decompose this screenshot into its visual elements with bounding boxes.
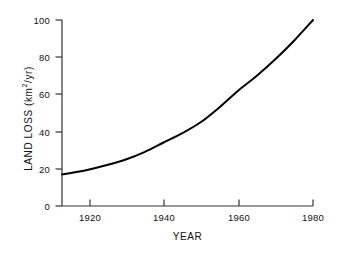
y-axis-label-exponent: 2: [21, 83, 28, 88]
y-tick-label-0: 0: [6, 201, 50, 212]
data-series-line: [62, 20, 313, 174]
y-axis-ticks: [56, 20, 63, 206]
x-tick-label-1980: 1980: [302, 212, 324, 223]
chart-figure: 100 80 60 40 20 0 1920 1940 1960 1980 LA…: [0, 0, 341, 258]
y-tick-label-100: 100: [6, 15, 50, 26]
y-axis-label: LAND LOSS (km2/yr): [23, 44, 34, 194]
x-axis-label: YEAR: [62, 231, 313, 242]
y-axis-label-prefix: LAND LOSS (km: [23, 87, 34, 170]
x-tick-label-1920: 1920: [79, 212, 101, 223]
y-axis-label-suffix: /yr): [23, 66, 34, 83]
x-tick-label-1940: 1940: [153, 212, 175, 223]
x-tick-label-1960: 1960: [228, 212, 250, 223]
x-axis-ticks: [90, 200, 313, 207]
